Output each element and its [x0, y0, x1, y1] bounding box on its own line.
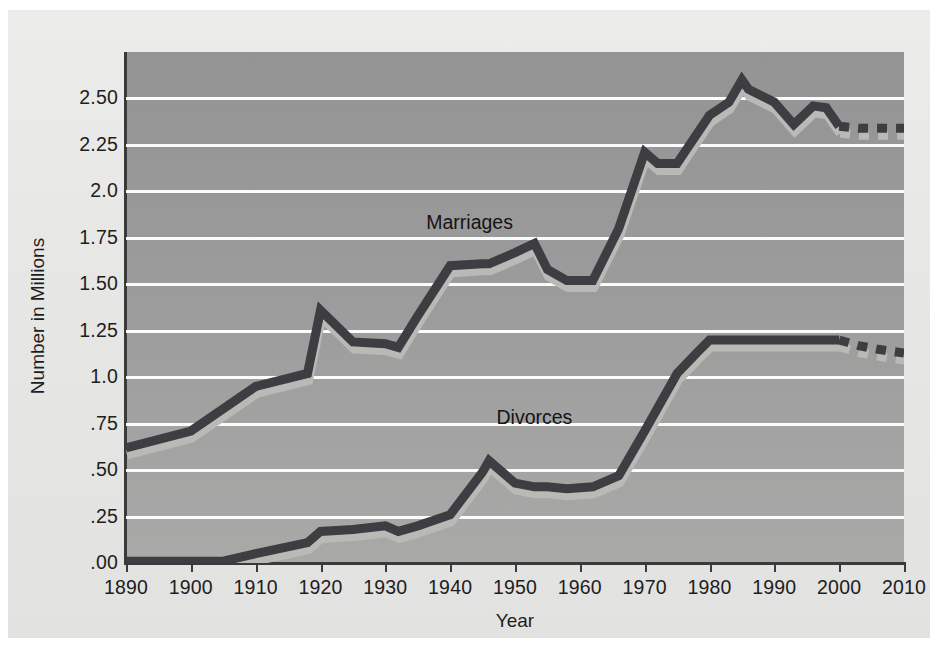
y-tick-label: .75	[90, 412, 118, 435]
x-tick-label: 1950	[493, 576, 537, 599]
y-tick-label: 2.25	[79, 133, 118, 156]
x-tick-label: 2010	[882, 576, 926, 599]
x-tick-mark	[126, 563, 128, 572]
x-tick-label: 1900	[169, 576, 213, 599]
series-divorces	[126, 340, 904, 563]
y-tick-label: 2.50	[79, 86, 118, 109]
x-tick-label: 1970	[623, 576, 667, 599]
y-tick-label: 1.25	[79, 319, 118, 342]
x-tick-label: 1930	[363, 576, 407, 599]
x-tick-mark	[256, 563, 258, 572]
x-tick-label: 2000	[817, 576, 861, 599]
x-tick-label: 1990	[752, 576, 796, 599]
chart-figure: .00.25.50.751.01.251.501.752.02.252.50 1…	[0, 0, 938, 646]
x-tick-label: 1980	[687, 576, 731, 599]
x-tick-mark	[710, 563, 712, 572]
x-tick-mark	[645, 563, 647, 572]
x-tick-label: 1920	[298, 576, 342, 599]
series-lines	[126, 52, 904, 563]
y-axis-title: Number in Millions	[27, 136, 49, 496]
series-label-marriages: Marriages	[426, 211, 513, 234]
x-tick-mark	[580, 563, 582, 572]
y-tick-label: 1.0	[90, 365, 118, 388]
x-tick-label: 1890	[104, 576, 148, 599]
x-tick-mark	[385, 563, 387, 572]
series-marriages	[126, 80, 904, 455]
x-tick-label: 1940	[428, 576, 472, 599]
x-tick-mark	[191, 563, 193, 572]
x-tick-mark	[515, 563, 517, 572]
x-tick-label: 1960	[558, 576, 602, 599]
y-tick-label: 2.0	[90, 179, 118, 202]
x-tick-mark	[450, 563, 452, 572]
x-axis-title: Year	[126, 610, 904, 632]
y-tick-label: 1.50	[79, 272, 118, 295]
chart-panel: .00.25.50.751.01.251.501.752.02.252.50 1…	[8, 10, 930, 638]
x-tick-mark	[839, 563, 841, 572]
x-tick-mark	[904, 563, 906, 572]
x-tick-mark	[774, 563, 776, 572]
y-tick-labels: .00.25.50.751.01.251.501.752.02.252.50	[8, 10, 118, 646]
y-tick-label: .25	[90, 505, 118, 528]
x-tick-mark	[321, 563, 323, 572]
x-tick-label: 1910	[234, 576, 278, 599]
y-tick-label: .50	[90, 458, 118, 481]
y-tick-label: .00	[90, 551, 118, 574]
y-tick-label: 1.75	[79, 226, 118, 249]
series-label-divorces: Divorces	[497, 406, 573, 429]
